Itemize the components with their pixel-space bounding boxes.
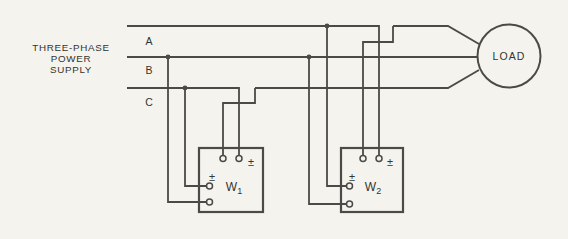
supply-label-line-1: THREE-PHASE	[32, 42, 109, 53]
junction-dot-c-w1	[183, 86, 188, 91]
phase-c-wire	[127, 70, 479, 156]
two-wattmeter-circuit-diagram: THREE-PHASE POWER SUPPLY	[0, 0, 568, 239]
junction-dot-b-w2	[307, 55, 312, 60]
phase-a-wire	[127, 26, 479, 156]
w2-current-polarity-mark: ±	[387, 156, 393, 168]
phase-label-c: C	[145, 96, 153, 108]
w1-voltage-wire-from-c	[185, 88, 207, 186]
w2-current-terminal-2	[376, 156, 382, 162]
w2-voltage-terminal-2	[347, 201, 353, 207]
junction-dot-a-w2	[325, 24, 330, 29]
w2-voltage-polarity-mark: ±	[349, 171, 355, 183]
wattmeter-w2: ± ± W2	[341, 148, 403, 212]
phase-a-meter-jog	[363, 26, 393, 156]
phase-c-load-segment	[255, 70, 479, 88]
w1-voltage-wire-from-b	[168, 57, 207, 202]
w1-voltage-terminal-2	[207, 199, 213, 205]
phase-label-a: A	[145, 35, 152, 47]
wattmeter-w1: ± ± W1	[199, 148, 263, 212]
w2-voltage-wire-from-a	[327, 26, 347, 186]
w1-voltage-wires	[168, 57, 207, 202]
w1-voltage-polarity-mark: ±	[209, 171, 215, 183]
circuit-figure: THREE-PHASE POWER SUPPLY	[0, 0, 568, 239]
w1-voltage-terminal-1	[207, 183, 213, 189]
load: LOAD	[478, 25, 541, 88]
supply-label: THREE-PHASE POWER SUPPLY	[32, 42, 109, 75]
phase-a-supply-segment	[127, 26, 379, 156]
w1-current-polarity-mark: ±	[248, 156, 254, 168]
w2-label: W2	[365, 180, 381, 196]
w1-current-terminal-2	[236, 156, 242, 162]
w2-voltage-terminal-1	[347, 183, 353, 189]
phase-label-b: B	[145, 64, 152, 76]
junction-dot-b-w1	[166, 55, 171, 60]
w2-current-terminal-1	[360, 156, 366, 162]
supply-label-line-2: POWER	[51, 53, 92, 64]
w1-current-terminal-1	[220, 156, 226, 162]
load-label: LOAD	[493, 50, 526, 62]
supply-label-line-3: SUPPLY	[50, 64, 92, 75]
w1-label: W1	[226, 180, 242, 196]
phase-a-load-segment	[393, 26, 479, 44]
